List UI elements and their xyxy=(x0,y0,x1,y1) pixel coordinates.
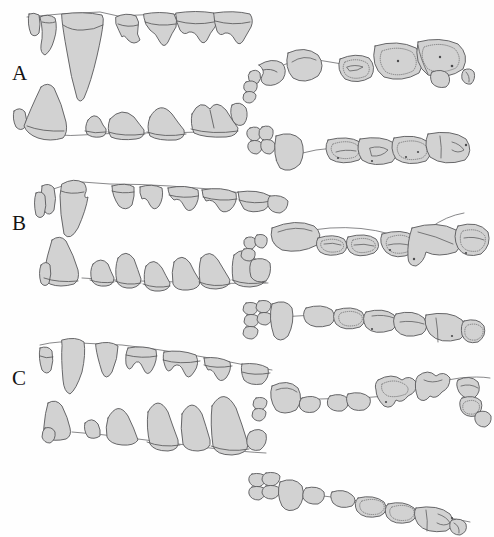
tooth-c-upper-p1 xyxy=(96,342,118,377)
tooth-a-lower-canine xyxy=(24,84,67,140)
b-upper-occlusal-row xyxy=(241,213,489,266)
tooth-c-upper-canine xyxy=(62,338,85,394)
a-lower-occlusal-row xyxy=(247,126,470,170)
c-upper-lateral-row xyxy=(39,338,272,394)
tooth-a-upper-occ-p1 xyxy=(287,49,322,81)
tooth-b-upper-occ-i3 xyxy=(241,248,255,261)
tooth-c-lower-m4 xyxy=(247,429,267,450)
tooth-b-lower-occ-m1 xyxy=(364,310,397,332)
tooth-a-upper-canine xyxy=(62,13,103,101)
tooth-c-lower-p2 xyxy=(106,408,138,445)
tooth-c-upper-p2 xyxy=(126,347,157,374)
panel-label-b: B xyxy=(12,211,26,235)
tooth-b-lower-occ-i5 xyxy=(243,326,258,339)
c-lower-occlusal-row xyxy=(249,472,470,535)
tooth-c-lower-p1 xyxy=(84,420,100,439)
tooth-b-upper-m4 xyxy=(268,196,288,213)
tooth-a-upper-i2 xyxy=(40,15,56,55)
tooth-b-upper-m1 xyxy=(168,186,199,210)
panel-label-c: C xyxy=(12,366,26,390)
tooth-c-upper-m1 xyxy=(163,351,197,377)
tooth-c-upper-occ-p3 xyxy=(347,393,371,411)
b-lower-occlusal-row xyxy=(243,300,485,342)
tooth-c-upper-m2 xyxy=(204,358,231,381)
tooth-c-lower-m3 xyxy=(211,396,248,455)
tooth-a-lower-occ-m3 xyxy=(426,132,470,163)
a-lower-lateral-row xyxy=(13,84,247,140)
tooth-a-upper-m2 xyxy=(214,12,252,44)
dentition-plate: A B C xyxy=(0,0,494,537)
tooth-a-upper-occ-m3 xyxy=(431,70,450,87)
tooth-b-upper-p1 xyxy=(112,184,134,209)
tooth-b-lower-occ-i4 xyxy=(257,312,272,325)
tooth-c-lower-occ-i2 xyxy=(262,472,280,486)
tooth-a-upper-p1 xyxy=(116,14,140,43)
tooth-a-lower-occ-i4 xyxy=(261,140,275,155)
tooth-c-lower-i1 xyxy=(42,428,55,444)
tooth-b-lower-m2 xyxy=(172,257,200,290)
tooth-b-lower-occ-m3 xyxy=(425,313,465,341)
tooth-b-upper-occ-m2 xyxy=(408,224,461,266)
tooth-b-lower-occ-i2 xyxy=(256,300,271,313)
tooth-b-upper-i2 xyxy=(35,192,46,218)
tooth-b-lower-m5 xyxy=(250,259,271,282)
tooth-c-upper-occ-canine xyxy=(271,382,301,413)
tooth-b-lower-occ-m2 xyxy=(394,312,427,336)
c-lower-lateral-row xyxy=(42,396,266,455)
tooth-c-lower-occ-p1 xyxy=(303,487,325,504)
tooth-c-upper-i1 xyxy=(39,347,52,373)
tooth-a-lower-occ-canine xyxy=(275,134,304,171)
tooth-b-lower-occ-p1 xyxy=(304,306,335,327)
c-upper-occlusal-row xyxy=(252,372,491,427)
figure-root: A B C xyxy=(0,0,494,537)
b-upper-lateral-row xyxy=(35,180,289,237)
tooth-a-lower-occ-i3 xyxy=(248,140,262,154)
tooth-a-lower-occ-m1 xyxy=(358,138,397,165)
panel-c xyxy=(39,338,491,535)
tooth-a-upper-occ-p2 xyxy=(339,55,374,81)
tooth-a-upper-occ-canine xyxy=(259,60,285,85)
tooth-b-upper-occ-i1 xyxy=(244,237,256,249)
tooth-a-upper-i1 xyxy=(28,13,40,36)
panel-a xyxy=(13,12,474,171)
tooth-c-lower-occ-canine xyxy=(278,480,303,511)
a-upper-lateral-row xyxy=(27,12,252,102)
tooth-a-upper-m1 xyxy=(176,12,216,43)
tooth-b-upper-canine xyxy=(60,180,88,237)
tooth-b-upper-occ-i2 xyxy=(255,234,267,248)
a-upper-occlusal-row xyxy=(243,39,475,103)
tooth-c-lower-occ-i4 xyxy=(262,485,280,499)
tooth-b-upper-p2 xyxy=(140,185,163,209)
tooth-c-upper-occ-p1 xyxy=(299,396,320,412)
b-lower-lateral-row xyxy=(40,237,271,291)
panel-label-a: A xyxy=(12,61,28,85)
tooth-a-upper-p2 xyxy=(144,13,177,46)
tooth-c-lower-occ-p2 xyxy=(331,491,355,508)
tooth-b-lower-occ-i3 xyxy=(244,314,259,327)
tooth-c-upper-occ-m5 xyxy=(475,411,491,427)
tooth-b-lower-occ-p2 xyxy=(334,308,365,329)
tooth-c-upper-occ-m2 xyxy=(415,372,450,401)
tooth-c-upper-occ-m3 xyxy=(457,377,480,398)
tooth-a-upper-occ-isolated xyxy=(462,69,475,84)
tooth-a-lower-p2 xyxy=(108,112,144,140)
panel-b xyxy=(35,180,490,342)
tooth-b-lower-i1 xyxy=(40,263,51,286)
tooth-c-upper-occ-p2 xyxy=(327,395,348,412)
tooth-a-lower-p1 xyxy=(86,116,106,137)
tooth-c-upper-occ-m1 xyxy=(375,376,416,407)
tooth-c-lower-m2 xyxy=(181,405,210,451)
tooth-c-upper-occ-i2 xyxy=(252,408,266,421)
tooth-b-upper-occ-canine xyxy=(271,222,320,251)
tooth-a-upper-occ-i3 xyxy=(243,91,256,103)
tooth-a-lower-occ-i2 xyxy=(259,126,273,141)
tooth-b-lower-occ-i1 xyxy=(243,302,258,315)
tooth-b-lower-occ-canine xyxy=(270,302,293,340)
